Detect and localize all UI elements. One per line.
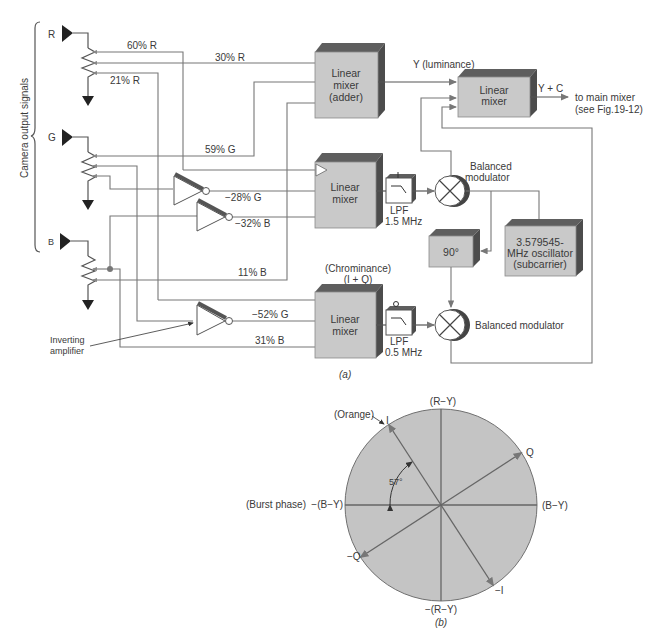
wire-60r <box>93 52 183 170</box>
ground-g-icon <box>82 200 94 210</box>
adder-label-2: mixer <box>333 79 359 91</box>
source-b: B <box>48 233 95 310</box>
ground-r-icon <box>82 96 94 106</box>
source-b-label: B <box>48 237 54 247</box>
lpf-q-label-1: LPF <box>390 336 408 347</box>
i-plus-q-label: (I + Q) <box>344 274 373 285</box>
output-mixer-label-2: mixer <box>481 95 507 107</box>
mixer-q-label-1: Linear <box>330 313 360 325</box>
adder-label-1: Linear <box>331 67 361 79</box>
label-r-y: (R−Y) <box>430 396 456 407</box>
phase-label: 90° <box>443 246 459 258</box>
camera-signals-brace <box>31 22 40 252</box>
linear-mixer-adder: Linear mixer (adder) <box>315 43 385 118</box>
linear-mixer-i: Linear mixer <box>315 153 383 228</box>
source-r-label: R <box>48 29 55 40</box>
bal-mod-i-label-2: modulator <box>465 172 510 183</box>
caption-a: (a) <box>339 369 351 380</box>
see-fig-label: (see Fig.19-12) <box>575 104 643 115</box>
label-59g: 59% G <box>205 144 236 155</box>
label-neg-r-y: −(R−Y) <box>425 604 457 615</box>
source-r-triangle-icon <box>62 25 73 42</box>
bal-mod-i-label-1: Balanced <box>470 161 512 172</box>
mixer-i-label-1: Linear <box>330 181 360 193</box>
lpf-q: LPF 0.5 MHz <box>385 302 422 359</box>
luminance-label: Y (luminance) <box>413 59 475 70</box>
inverting-amplifier-label-2: amplifier <box>50 346 84 356</box>
label-21r: 21% R <box>110 75 140 86</box>
chrominance-label: (Chrominance) <box>325 263 391 274</box>
lpf-q-label-2: 0.5 MHz <box>385 347 422 358</box>
to-main-mixer-label: to main mixer <box>575 92 636 103</box>
label-burst: (Burst phase) <box>246 499 306 510</box>
mixer-q-label-2: mixer <box>332 325 358 337</box>
label-60r: 60% R <box>127 40 157 51</box>
wire-b-to-inv2 <box>110 216 197 269</box>
label-28g: −28% G <box>225 192 262 203</box>
label-32b: −32% B <box>235 218 271 229</box>
inverting-amplifier-1: −28% G <box>174 174 315 205</box>
ground-b-icon <box>82 300 94 310</box>
label-q: Q <box>526 447 534 458</box>
lpf-i-label-2: 1.5 MHz <box>385 216 422 227</box>
source-g: G <box>48 129 95 210</box>
ntsc-encoder-diagram: Camera output signals R G B <box>0 0 662 630</box>
balanced-modulator-q: Balanced modulator <box>435 309 565 341</box>
source-g-triangle-icon <box>62 129 73 146</box>
wire-mod-i-out <box>421 98 456 176</box>
lpf-i: LPF 1.5 MHz <box>385 172 422 227</box>
lpf-i-label-1: LPF <box>390 205 408 216</box>
label-52g: −52% G <box>252 309 289 320</box>
potentiometer-r-icon <box>82 48 95 96</box>
source-b-triangle-icon <box>60 233 71 250</box>
wire-21r <box>93 73 158 300</box>
inverting-amplifier-label-1: Inverting <box>50 335 85 345</box>
camera-signals-label: Camera output signals <box>19 78 30 178</box>
label-31b: 31% B <box>255 335 285 346</box>
adder-label-3: (adder) <box>329 91 363 103</box>
figure-b: 57° (R−Y) −(R−Y) (B−Y) −(B−Y) (Burst pha… <box>246 396 568 628</box>
label-neg-b-y: −(B−Y) <box>311 499 343 510</box>
mixer-i-label-2: mixer <box>332 193 358 205</box>
oscillator-subcarrier: 3.579545- MHz oscillator (subcarrier) <box>505 219 583 276</box>
figure-a: Camera output signals R G B <box>19 22 643 380</box>
bal-mod-q-label: Balanced modulator <box>475 320 565 331</box>
label-neg-q: −Q <box>347 551 361 562</box>
inverting-amplifier-pointer <box>90 323 193 346</box>
wire-59g <box>93 82 315 156</box>
wire-g-to-inv1 <box>93 176 173 189</box>
label-b-y: (B−Y) <box>542 500 568 511</box>
label-neg-i: −I <box>495 585 504 596</box>
label-i: I <box>386 415 389 426</box>
potentiometer-b-icon <box>82 256 95 300</box>
linear-mixer-output: Linear mixer <box>458 69 537 117</box>
inverting-amplifier-2: −32% B <box>197 200 315 231</box>
orange-pointer <box>372 416 384 424</box>
source-g-label: G <box>48 132 56 143</box>
output-label: Y + C <box>538 83 563 94</box>
caption-b: (b) <box>435 617 447 628</box>
linear-mixer-q: Linear mixer <box>315 284 383 358</box>
angle-label: 57° <box>389 477 403 487</box>
label-11b: 11% B <box>238 267 267 278</box>
label-orange: (Orange) <box>334 409 374 420</box>
oscillator-label-3: (subcarrier) <box>513 258 567 270</box>
label-30r: 30% R <box>215 52 245 63</box>
balanced-modulator-i: Balanced modulator <box>435 161 512 207</box>
phase-shifter-90: 90° <box>429 229 480 267</box>
inverting-amplifier-3: −52% G <box>197 303 315 335</box>
source-r: R <box>48 25 95 106</box>
